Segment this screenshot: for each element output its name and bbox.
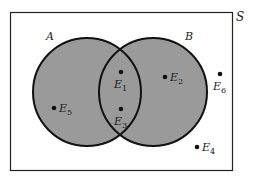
- element-dot: [119, 70, 124, 75]
- element-dot: [218, 72, 223, 77]
- element-dot: [163, 75, 168, 80]
- venn-diagram: S A B E1 E2 E3 E4 E5 E6: [0, 0, 254, 178]
- set-b-label: B: [184, 30, 193, 43]
- shaded-union: [33, 38, 207, 146]
- universe-label: S: [236, 10, 244, 24]
- set-a-label: A: [45, 30, 54, 43]
- element-dot: [195, 145, 200, 150]
- element-dot: [119, 107, 124, 112]
- element-dot: [52, 106, 57, 111]
